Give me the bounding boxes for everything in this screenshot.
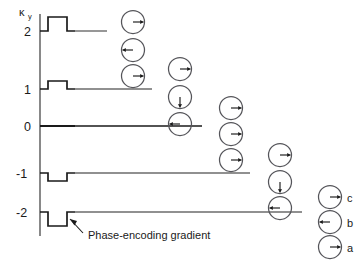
phasor-c2-2-down: [169, 86, 192, 109]
legend: cba: [319, 186, 355, 259]
annotation-arrowhead-icon: [70, 219, 77, 226]
y-tick-label-2: 2: [24, 25, 31, 39]
legend-label-b: b: [347, 217, 353, 229]
legend-label-a: a: [347, 242, 354, 254]
phasor-arrowhead-icon: [187, 67, 190, 71]
legend-item-b: b: [319, 211, 354, 234]
phase-encoding-gradient-label: Phase-encoding gradient: [88, 229, 210, 241]
legend-label-c: c: [347, 192, 353, 204]
gradient-pulse-k-1: [40, 173, 75, 181]
gradient-row-k-2: [40, 212, 302, 226]
phasor-arrowhead-icon: [123, 48, 126, 52]
y-tick-label--2: -2: [16, 206, 27, 220]
gradient-pulse-k2: [40, 17, 75, 31]
phasor-column-2: [169, 58, 192, 136]
phasor-c3-1-right: [220, 97, 243, 120]
phasor-c4-3-left: [269, 197, 292, 220]
y-axis-label-subscript: y: [28, 12, 32, 21]
y-tick-label-0: 0: [24, 120, 31, 134]
annotation-leader: [70, 219, 83, 233]
gradient-waveform-rows: [40, 17, 302, 226]
phasor-arrowhead-icon: [337, 195, 340, 199]
legend-phasor-c: [319, 186, 342, 209]
phasor-arrowhead-icon: [278, 189, 282, 192]
phasor-columns: [122, 11, 292, 220]
phasor-c4-2-down: [269, 171, 292, 194]
gradient-pulse-k1: [40, 81, 75, 89]
phasor-c2-3-left: [169, 113, 192, 136]
y-tick-label-1: 1: [24, 83, 31, 97]
phasor-arrowhead-icon: [337, 245, 340, 249]
phasor-arrowhead-icon: [178, 104, 182, 107]
phasor-c3-3-right: [220, 149, 243, 172]
phasor-column-4: [269, 144, 292, 220]
phasor-arrowhead-icon: [320, 220, 323, 224]
y-axis-label: κ: [19, 6, 25, 18]
figure-canvas: κ y 210-1-2 Phase-encoding gradient cba: [0, 0, 363, 264]
phasor-arrowhead-icon: [238, 132, 241, 136]
phasor-column-1: [122, 11, 145, 88]
phasor-c1-1-right: [122, 11, 145, 34]
phasor-arrowhead-icon: [238, 158, 241, 162]
phasor-c1-2-left: [122, 39, 145, 62]
kspace-phase-encoding-figure: κ y 210-1-2 Phase-encoding gradient cba: [0, 0, 363, 264]
phasor-arrowhead-icon: [270, 206, 273, 210]
phasor-arrowhead-icon: [238, 106, 241, 110]
y-axis-tick-labels: 210-1-2: [16, 25, 31, 220]
legend-item-a: a: [319, 236, 355, 259]
phasor-c1-3-right: [122, 65, 145, 88]
phasor-column-3: [220, 97, 243, 172]
gradient-row-k2: [40, 17, 107, 31]
phasor-c4-1-right: [269, 144, 292, 167]
y-tick-label--1: -1: [16, 167, 27, 181]
gradient-row-k-1: [40, 173, 250, 181]
phasor-arrowhead-icon: [287, 153, 290, 157]
phasor-c3-2-right: [220, 123, 243, 146]
phasor-c2-1-right: [169, 58, 192, 81]
gradient-pulse-k-2: [40, 212, 75, 226]
legend-item-c: c: [319, 186, 354, 209]
phasor-arrowhead-icon: [140, 74, 143, 78]
legend-phasor-b: [319, 211, 342, 234]
phasor-arrowhead-icon: [140, 20, 143, 24]
legend-phasor-a: [319, 236, 342, 259]
